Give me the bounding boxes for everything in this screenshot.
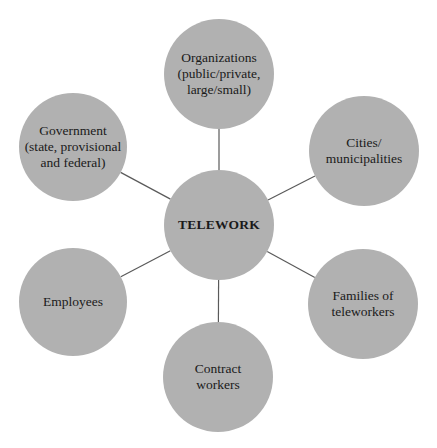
node-contract-workers: Contract workers: [163, 322, 273, 432]
node-label: Employees: [43, 294, 103, 310]
node-label: Contract workers: [195, 361, 242, 393]
node-employees: Employees: [19, 248, 127, 356]
node-organizations: Organizations (public/private, large/sma…: [164, 19, 274, 129]
connector-line: [121, 172, 171, 199]
connector-line: [267, 252, 315, 278]
center-node-label: TELEWORK: [178, 217, 260, 233]
node-label: Cities/ municipalities: [326, 135, 403, 167]
connector-line: [268, 176, 315, 200]
connector-line: [121, 251, 171, 277]
node-government: Government (state, provisional and feder…: [19, 93, 127, 201]
telework-stakeholder-diagram: TELEWORK Organizations (public/private, …: [0, 0, 437, 448]
node-label: Families of teleworkers: [332, 288, 395, 320]
center-node-telework: TELEWORK: [164, 170, 274, 280]
node-label: Organizations (public/private, large/sma…: [178, 50, 261, 98]
node-label: Government (state, provisional and feder…: [25, 123, 122, 171]
node-families: Families of teleworkers: [308, 249, 418, 359]
node-cities: Cities/ municipalities: [309, 96, 419, 206]
